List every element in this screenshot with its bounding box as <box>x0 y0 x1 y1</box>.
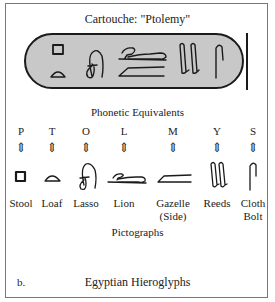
label-cloth: Cloth <box>229 197 275 210</box>
stool-icon <box>16 172 25 181</box>
lasso-icon <box>80 164 96 190</box>
label-bolt: Bolt <box>229 210 275 223</box>
figure-caption: Egyptian Hieroglyphs <box>0 275 275 290</box>
lion-icon <box>108 174 146 183</box>
label-gazelle: Gazelle <box>149 197 197 210</box>
gazelle-icon <box>158 175 191 182</box>
loaf-icon <box>45 176 60 181</box>
pictograph-row <box>0 0 275 302</box>
label-gazelle-side: (Side) <box>149 210 197 223</box>
pictographs-heading: Pictographs <box>0 226 275 238</box>
label-lion: Lion <box>100 197 148 210</box>
reeds-icon <box>211 163 227 187</box>
cloth-bolt-icon <box>250 163 256 190</box>
